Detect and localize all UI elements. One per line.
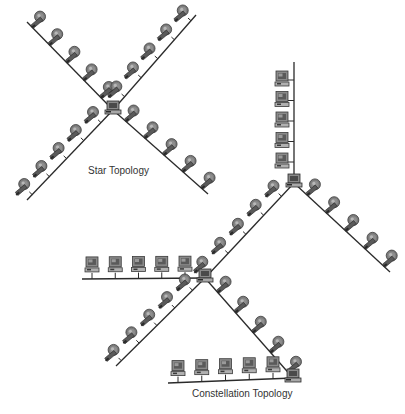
computer-icon [171, 361, 185, 376]
bus-line [113, 15, 196, 110]
bus-line [113, 110, 208, 194]
computer-icon [195, 360, 209, 375]
middle-lower-left [105, 274, 205, 366]
computer-icon [176, 274, 190, 291]
bus-line [27, 22, 113, 110]
computer-icon [123, 327, 137, 344]
computer-icon [144, 122, 158, 139]
hub-icon [105, 101, 121, 114]
computer-icon [83, 64, 97, 81]
computer-icon [31, 11, 45, 28]
computer-icon [48, 29, 62, 46]
computer-icon [252, 316, 266, 333]
computer-icon [66, 46, 80, 63]
computer-icon [275, 153, 289, 168]
computer-icon [155, 256, 169, 271]
computer-icon [217, 276, 231, 293]
network-topology-diagram [0, 0, 405, 414]
bus-line [116, 278, 205, 366]
computer-icon [124, 62, 138, 79]
computer-icon [163, 139, 177, 156]
computer-icon [33, 161, 47, 178]
bus-line [205, 183, 294, 278]
bus-line [168, 378, 293, 383]
star-topology-label: Star Topology [88, 165, 149, 176]
vertical-bus [275, 62, 294, 183]
horizontal-bus-bottom [168, 357, 293, 383]
hub-middle-icon [197, 269, 213, 282]
computer-icon [234, 296, 248, 313]
star-arm-lower-left [15, 107, 113, 200]
computer-icon [266, 357, 280, 372]
computer-icon [201, 172, 215, 189]
computer-icon [105, 344, 119, 361]
computer-icon [108, 257, 122, 272]
star-arm-upper-left [27, 11, 114, 110]
computer-icon [15, 179, 29, 196]
computer-icon [344, 214, 358, 231]
computer-icon [275, 112, 289, 127]
hub-bottom-icon [285, 369, 301, 382]
computer-icon [174, 5, 188, 22]
computer-icon [50, 143, 64, 160]
computer-icon [364, 232, 378, 249]
top-to-middle [193, 180, 294, 278]
computer-icon [242, 358, 256, 373]
computer-icon [383, 250, 397, 267]
bus-line [27, 110, 113, 200]
computer-icon [125, 105, 139, 122]
computer-icon [219, 359, 233, 374]
computer-icon [84, 107, 98, 124]
computer-icon [275, 71, 289, 86]
computer-icon [247, 199, 261, 216]
computer-icon [211, 237, 225, 254]
computer-icon [140, 309, 154, 326]
hub-top-icon [286, 174, 302, 187]
computer-icon [306, 179, 320, 196]
computer-icon [85, 257, 99, 272]
computer-icon [269, 336, 283, 353]
computer-icon [229, 218, 243, 235]
computer-icon [275, 92, 289, 107]
computer-icon [158, 292, 172, 309]
computer-icon [67, 125, 81, 142]
computer-icon [265, 180, 279, 197]
computer-icon [275, 133, 289, 148]
computer-icon [178, 256, 192, 271]
computer-icon [132, 257, 146, 272]
computer-icon [325, 197, 339, 214]
star-arm-lower-right [113, 105, 215, 194]
top-lower-right [294, 179, 397, 272]
computer-icon [182, 155, 196, 172]
computer-icon [157, 24, 171, 41]
bus-line [294, 183, 390, 272]
computer-icon [141, 43, 155, 60]
constellation-topology-label: Constellation Topology [192, 388, 292, 399]
star-arm-upper-right [107, 5, 196, 110]
